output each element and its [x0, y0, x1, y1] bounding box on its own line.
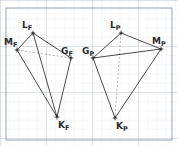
figure-canvas: LF MF GF KF LP MP GP KP — [0, 0, 178, 146]
tetrahedron-projection-diagram: LF MF GF KF LP MP GP KP — [0, 0, 178, 146]
